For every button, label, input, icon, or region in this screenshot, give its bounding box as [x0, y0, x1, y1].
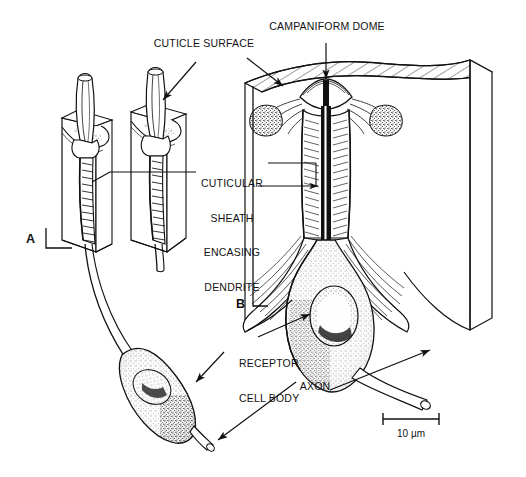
panel-letter-a: A [26, 232, 35, 246]
panel-b-cuticular-sheath [302, 106, 351, 240]
panel-letter-b: B [236, 297, 245, 311]
label-receptor-cell-body: RECEPTOR CELL BODY [239, 335, 315, 416]
label-cuticle-surface: CUTICLE SURFACE [152, 38, 256, 50]
scale-bar [383, 413, 439, 425]
label-receptor-cell-body-line-1: RECEPTOR [239, 358, 315, 370]
label-cuticular-sheath-line-3: ENCASING [195, 247, 269, 259]
label-axon: AXON [297, 381, 333, 393]
label-cuticular-sheath-line-4: DENDRITE [195, 282, 269, 294]
label-cuticular-sheath-line-1: CUTICULAR [195, 178, 269, 190]
label-cuticular-sheath-line-2: SHEATH [195, 213, 269, 225]
label-cuticular-sheath: CUTICULAR SHEATH ENCASING DENDRITE [195, 155, 269, 305]
scale-bar-caption: 10 µm [383, 428, 439, 439]
panel-a-illustration [62, 68, 216, 453]
panel-a-cuticular-sheath [80, 156, 165, 244]
panel-a-receptor-cell-body [112, 345, 216, 453]
panel-a-dendrites [85, 244, 164, 356]
label-receptor-cell-body-line-2: CELL BODY [239, 393, 315, 405]
label-campaniform-dome: CAMPANIFORM DOME [263, 21, 391, 33]
panel-a-hair-shafts [76, 68, 165, 144]
leader-receptor-a [196, 352, 224, 382]
leader-cuticle-surface-to-a [163, 62, 196, 100]
